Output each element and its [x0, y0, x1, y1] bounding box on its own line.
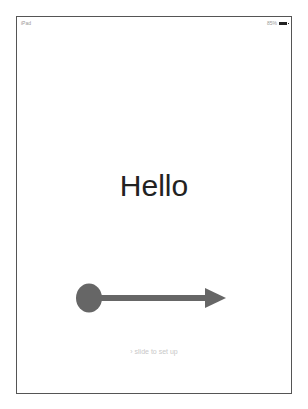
swipe-arrow-icon: [75, 281, 227, 315]
battery-icon: [279, 22, 287, 25]
status-right: 85%: [267, 20, 287, 26]
slide-hint-label: slide to set up: [135, 348, 178, 355]
carrier-label: iPad: [21, 20, 31, 26]
cropped-caption: [0, 0, 308, 6]
battery-percent: 85%: [267, 20, 277, 26]
ipad-screen: iPad 85% Hello ›slide to set up: [16, 16, 292, 394]
chevron-right-icon: ›: [130, 348, 132, 355]
hello-title: Hello: [17, 169, 291, 203]
status-bar: iPad 85%: [17, 19, 291, 27]
slide-to-set-up[interactable]: ›slide to set up: [17, 348, 291, 355]
